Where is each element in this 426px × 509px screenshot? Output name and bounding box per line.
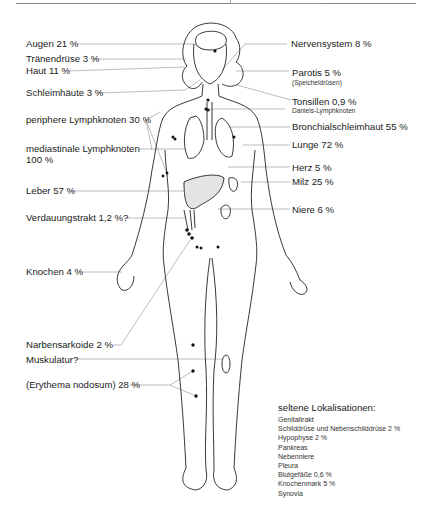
lymph-node-dots (162, 49, 236, 397)
label-tonsillen: Tonsillen 0,9 % (292, 96, 357, 107)
label-haut: Haut 11 % (26, 65, 70, 76)
rare-item: Nebenniere (278, 452, 400, 461)
rare-item: Schilddrüse und Nebenschilddrüse 2 % (278, 424, 400, 433)
label-mediastinale-lymphknoten: mediastinale Lymphknoten (26, 143, 140, 154)
rare-item: Blutgefäße 0,6 % (278, 470, 400, 479)
label-verdauungstrakt: Verdauungstrakt 1,2 %? (26, 212, 128, 223)
label-leber: Leber 57 % (26, 185, 75, 196)
label-mediastinale-pct: 100 % (26, 154, 53, 165)
label-parotis-sub: (Speicheldrüsen) (292, 79, 342, 87)
label-parotis: Parotis 5 % (292, 67, 341, 78)
rare-item: Hypophyse 2 % (278, 433, 400, 442)
label-tonsillen-sub: Daniels-Lymphknoten (292, 107, 356, 115)
label-erythema-nodosum: (Erythema nodosum) 28 % (26, 379, 140, 390)
label-lunge: Lunge 72 % (292, 139, 343, 150)
rare-item: Pankreas (278, 443, 400, 452)
label-muskulatur: Muskulatur? (26, 354, 78, 365)
label-knochen: Knochen 4 % (26, 266, 83, 277)
label-herz: Herz 5 % (292, 162, 331, 173)
label-periphere-lymphknoten: periphere Lymphknoten 30 % (26, 114, 151, 125)
rare-item: Pleura (278, 461, 400, 470)
rare-localizations-box: seltene Lokalisationen: Genitaltrakt Sch… (278, 402, 400, 498)
label-milz: Milz 25 % (292, 176, 334, 187)
label-niere: Niere 6 % (292, 204, 334, 215)
rare-title: seltene Lokalisationen: (278, 402, 400, 414)
rare-item: Genitaltrakt (278, 415, 400, 424)
label-augen: Augen 21 % (26, 38, 78, 49)
rare-item: Synovia (278, 489, 400, 498)
label-nervensystem: Nervensystem 8 % (291, 38, 372, 49)
label-schleimhaeute: Schleimhäute 3 % (26, 87, 103, 98)
label-traenendruese: Tränendrüse 3 % (26, 53, 99, 64)
label-narbensarkoide: Narbensarkoide 2 % (26, 339, 113, 350)
rare-item: Knochenmark 5 % (278, 479, 400, 488)
label-bronchialschleimhaut: Bronchialschleimhaut 55 % (292, 121, 408, 132)
